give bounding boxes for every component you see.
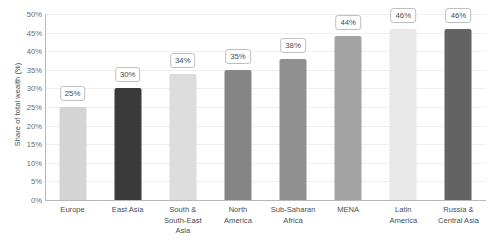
x-category-label-line: America	[376, 216, 431, 227]
x-axis-category-labels: EuropeEast AsiaSouth &South-EastAsiaNort…	[45, 205, 486, 244]
x-category-label-line: Europe	[45, 205, 100, 216]
bar[interactable]	[335, 36, 362, 200]
bar-value-label: 34%	[170, 53, 196, 68]
bar[interactable]	[169, 74, 196, 200]
y-tick-label-25: 25%	[2, 103, 42, 112]
x-category-label-line: South-East	[155, 216, 210, 227]
bar[interactable]	[224, 70, 251, 200]
gridline-0	[45, 200, 486, 201]
bar-value-label: 25%	[60, 86, 86, 101]
x-category-label-line: Africa	[266, 216, 321, 227]
bar[interactable]	[390, 29, 417, 200]
y-tick-label-50: 50%	[2, 10, 42, 19]
bar-value-label: 38%	[280, 38, 306, 53]
bar[interactable]	[445, 29, 472, 200]
bar-slot: 38%	[266, 14, 321, 200]
bar-slot: 46%	[431, 14, 486, 200]
x-category-label: Europe	[45, 205, 100, 216]
y-tick-label-40: 40%	[2, 47, 42, 56]
bar[interactable]	[114, 88, 141, 200]
bar-value-label: 46%	[391, 8, 417, 23]
y-tick-label-45: 45%	[2, 28, 42, 37]
x-category-label-line: Asia	[155, 226, 210, 237]
bar[interactable]	[59, 107, 86, 200]
x-category-label-line: America	[210, 216, 265, 227]
bar-value-label: 44%	[335, 15, 361, 30]
bar-value-label: 46%	[446, 8, 472, 23]
y-tick-label-35: 35%	[2, 65, 42, 74]
y-tick-label-15: 15%	[2, 140, 42, 149]
bar[interactable]	[280, 59, 307, 200]
x-category-label-line: South &	[155, 205, 210, 216]
y-tick-label-10: 10%	[2, 158, 42, 167]
x-category-label-line: Latin	[376, 205, 431, 216]
bar-chart: Share of total wealth (%) 50%45%40%35%30…	[0, 0, 491, 244]
x-category-label-line: Sub-Saharan	[266, 205, 321, 216]
bar-slot: 44%	[321, 14, 376, 200]
bar-slot: 30%	[100, 14, 155, 200]
x-category-label-line: North	[210, 205, 265, 216]
bar-slot: 34%	[155, 14, 210, 200]
x-category-label: NorthAmerica	[210, 205, 265, 226]
bar-value-label: 30%	[115, 67, 141, 82]
x-category-label: Russia &Central Asia	[431, 205, 486, 226]
bar-slot: 25%	[45, 14, 100, 200]
x-category-label: East Asia	[100, 205, 155, 216]
x-category-label-line: East Asia	[100, 205, 155, 216]
x-category-label-line: MENA	[321, 205, 376, 216]
y-tick-label-30: 30%	[2, 84, 42, 93]
x-category-label-line: Russia &	[431, 205, 486, 216]
x-category-label: MENA	[321, 205, 376, 216]
y-tick-label-0: 0%	[2, 196, 42, 205]
y-tick-label-5: 5%	[2, 177, 42, 186]
x-category-label-line: Central Asia	[431, 216, 486, 227]
x-category-label: Sub-SaharanAfrica	[266, 205, 321, 226]
bar-slot: 46%	[376, 14, 431, 200]
bars-layer: 25%30%34%35%38%44%46%46%	[45, 14, 486, 200]
bar-value-label: 35%	[225, 49, 251, 64]
x-category-label: South &South-EastAsia	[155, 205, 210, 237]
bar-slot: 35%	[210, 14, 265, 200]
x-category-label: LatinAmerica	[376, 205, 431, 226]
y-tick-label-20: 20%	[2, 121, 42, 130]
